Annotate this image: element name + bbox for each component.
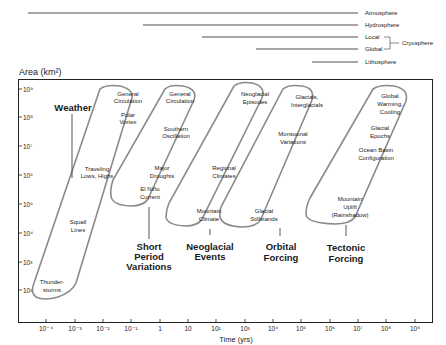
x-axis-label: Time (yrs): [219, 335, 253, 344]
item-label: Glacial: [371, 125, 389, 131]
item-label: (Rainshadow): [331, 212, 368, 218]
weather-region: [32, 85, 132, 299]
item-label: Neoglacial: [241, 91, 269, 97]
item-label: Climates: [212, 173, 235, 179]
item-label: Circulation: [166, 98, 194, 104]
x-tick: 10²: [211, 325, 221, 332]
item-label: Cooling: [380, 109, 400, 115]
x-tick: 10⁻²: [96, 325, 110, 332]
x-tick: 10⁻¹: [124, 325, 138, 332]
item-label: Uplift: [343, 204, 357, 210]
plot-frame: [19, 80, 433, 323]
item-label: Global: [381, 93, 398, 99]
x-tick: 10⁷: [353, 325, 363, 332]
item-label: Ocean Basin: [359, 147, 393, 153]
item-label: Vortex: [119, 119, 136, 125]
item-label: Warming,: [377, 101, 403, 107]
y-tick: 10⁹: [23, 86, 33, 93]
x-tick: 10: [184, 325, 192, 332]
x-tick: 10⁵: [296, 325, 306, 332]
sphere-label: Global: [365, 46, 382, 52]
x-tick: 10⁴: [268, 325, 278, 332]
item-label: Episodes: [243, 99, 268, 105]
item-label: Squall: [70, 219, 87, 225]
sphere-label: Hydrosphere: [365, 22, 400, 28]
item-label: Mountain: [338, 196, 363, 202]
item-label: General: [117, 91, 138, 97]
item-label: Polar: [121, 112, 135, 118]
item-label: Glacial: [255, 208, 273, 214]
item-label: Major: [154, 165, 169, 171]
sphere-bars: [28, 13, 358, 62]
item-label: Interglacials: [291, 102, 323, 108]
y-tick: 10⁸: [23, 114, 33, 121]
item-label: Southern: [164, 126, 188, 132]
x-tick: 10³: [240, 325, 250, 332]
x-tick: 10⁸: [381, 325, 391, 332]
item-label: Oscillation: [162, 133, 190, 139]
x-tick: 10⁻⁴: [39, 325, 53, 332]
x-tick: 1: [158, 325, 162, 332]
group-title-orbital: Forcing: [264, 252, 299, 263]
y-tick: 10⁷: [23, 143, 33, 150]
item-label: Glacials,: [295, 94, 318, 100]
item-label: Epochs: [370, 133, 390, 139]
item-label: Lines: [71, 227, 85, 233]
item-label: El Niño: [140, 186, 160, 192]
cryosphere-bracket: [384, 37, 399, 49]
group-title-short-period: Variations: [126, 261, 171, 272]
item-label: Lows, Highs: [81, 173, 114, 179]
item-label: Stillstands: [250, 216, 277, 222]
item-label: Configuration: [358, 155, 394, 161]
y-tick: 10⁴: [23, 230, 33, 237]
y-tick: 10³: [23, 259, 33, 266]
group-title-orbital: Orbital: [266, 241, 297, 252]
item-label: Circulation: [114, 98, 142, 104]
y-axis-label: Area (km²): [19, 67, 62, 77]
group-title-neoglacial: Events: [194, 251, 225, 262]
item-label: Droughts: [150, 173, 174, 179]
item-label: storms: [43, 287, 61, 293]
y-tick: 10⁵: [23, 201, 33, 208]
group-title-tectonic: Forcing: [329, 253, 364, 264]
x-tick: 10⁹: [410, 325, 420, 332]
item-label: Monsoonal: [278, 131, 307, 137]
sphere-label: Local: [365, 34, 379, 40]
x-tick: 10⁶: [325, 325, 335, 332]
item-label: General: [169, 91, 190, 97]
sphere-label: Atmosphere: [365, 10, 398, 16]
group-title-weather: Weather: [54, 102, 92, 113]
y-tick: 10⁶: [23, 172, 33, 179]
item-label: Climate: [199, 216, 220, 222]
group-title-tectonic: Tectonic: [327, 242, 365, 253]
item-label: Current: [140, 194, 160, 200]
item-label: Traveling: [85, 166, 109, 172]
item-label: Mountain: [197, 208, 222, 214]
cryosphere-label: Cryosphere: [402, 40, 434, 46]
item-label: Thunder-: [40, 279, 64, 285]
sphere-label: Lithosphere: [365, 59, 397, 65]
item-label: Regional: [212, 165, 236, 171]
x-tick: 10⁻³: [68, 325, 82, 332]
climate-scales-diagram: Atmosphere Hydrosphere Local Global Lith…: [0, 0, 446, 345]
item-label: Variations: [280, 139, 306, 145]
